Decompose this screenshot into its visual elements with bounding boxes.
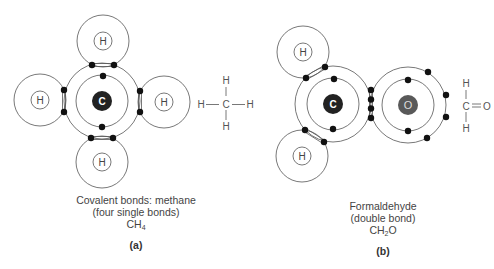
formaldehyde-caption: Formaldehyde (double bond) CH2O [313, 200, 453, 240]
hydrogen-atom-right: H [138, 76, 190, 128]
svg-text:C: C [329, 99, 336, 110]
formaldehyde-electron-diagram: H H [276, 26, 449, 182]
carbon-nucleus: C [323, 94, 343, 114]
svg-text:H: H [299, 47, 306, 58]
svg-text:H: H [246, 99, 253, 110]
svg-text:O: O [483, 101, 491, 112]
carbon-nucleus: C [92, 91, 112, 111]
svg-text:H: H [197, 99, 204, 110]
methane-structural-formula: H H C H H [197, 75, 253, 132]
svg-text:H: H [222, 75, 229, 86]
formaldehyde-structural-formula: H C O H [462, 78, 491, 134]
methane-caption: Covalent bonds: methane (four single bon… [56, 194, 216, 234]
caption-line-2: (double bond) [313, 212, 453, 224]
caption-formula: CH2O [313, 224, 453, 240]
svg-text:H: H [462, 123, 469, 134]
svg-text:H: H [462, 78, 469, 89]
hydrogen-atom-bottom: H [76, 136, 128, 188]
caption-line-1: Formaldehyde [313, 200, 453, 212]
svg-text:C: C [222, 99, 229, 110]
svg-text:H: H [160, 97, 167, 108]
hydrogen-atom-top: H [77, 15, 129, 67]
panel-label-a: (a) [116, 239, 156, 251]
svg-text:H: H [98, 157, 105, 168]
hydrogen-atom-top: H [277, 26, 329, 78]
svg-text:H: H [36, 95, 43, 106]
svg-text:H: H [298, 151, 305, 162]
svg-text:H: H [99, 36, 106, 47]
methane-electron-diagram: H H H H [14, 15, 190, 188]
svg-text:O: O [404, 99, 413, 111]
hydrogen-atom-left: H [14, 74, 66, 126]
caption-line-2: (four single bonds) [56, 206, 216, 218]
caption-formula: CH4 [56, 218, 216, 234]
svg-text:H: H [222, 121, 229, 132]
caption-line-1: Covalent bonds: methane [56, 194, 216, 206]
panel-label-b: (b) [363, 245, 403, 257]
svg-text:C: C [98, 96, 105, 107]
oxygen-nucleus: O [398, 95, 418, 115]
svg-text:C: C [462, 101, 469, 112]
